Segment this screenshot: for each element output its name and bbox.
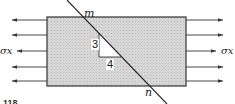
left-stress-arrows: [12, 20, 47, 81]
cut-label-m: m: [84, 8, 94, 19]
slope-rise-label: 3: [91, 39, 99, 50]
cut-label-n: n: [145, 87, 152, 98]
right-stress-arrows: [186, 20, 223, 81]
stress-label-right: σx: [221, 46, 233, 56]
stress-diagram: [0, 0, 235, 104]
slope-run-label: 4: [106, 59, 114, 70]
figure-number: 118: [3, 98, 18, 104]
stress-label-left: σx: [0, 46, 12, 56]
